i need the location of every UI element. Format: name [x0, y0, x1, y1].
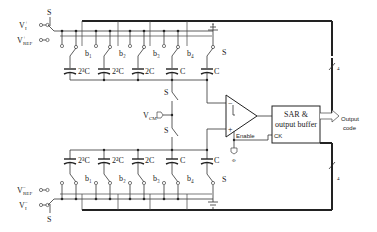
clock-phi-label: Φ	[232, 158, 236, 163]
bottom-input-switch	[39, 188, 54, 213]
top-bit-label: S	[222, 48, 226, 57]
top-bit-label: b₄	[187, 49, 194, 58]
sar-adc-schematic: S V + I V + REF b₁ b₂ b₃ b₄ S 2³C 2²C 2C…	[0, 0, 377, 232]
top-bit-label: b₂	[119, 49, 126, 58]
enable-label: Enable	[236, 133, 255, 139]
bottom-bit-label: b₂	[119, 174, 126, 183]
vref-minus-sup: −	[23, 185, 26, 190]
bottom-switch-label: S	[47, 215, 51, 224]
output-label-line2: code	[343, 125, 357, 131]
bottom-bit-label: b₃	[153, 174, 160, 183]
top-cap-label: 2²C	[112, 67, 124, 76]
comparator-minus: −	[228, 99, 233, 108]
bottom-bit-label: b₄	[187, 174, 194, 183]
vcm-sub: CM	[149, 116, 157, 121]
bottom-cap-label: C	[214, 156, 219, 165]
top-bit-label: b₁	[85, 49, 92, 58]
vin-minus-sup: −	[25, 200, 28, 205]
bus-width-top: 4	[337, 66, 340, 71]
comparator-plus: +	[228, 125, 233, 134]
top-cap-label: 2³C	[78, 67, 90, 76]
bottom-cap-label: 2²C	[112, 156, 124, 165]
vin-plus-sup: +	[25, 20, 28, 25]
sar-label-line1: SAR &	[284, 110, 309, 119]
output-label-line1: Output	[341, 116, 359, 122]
sar-label-line2: output buffer	[275, 120, 317, 129]
vcm-switch-bottom-label: S	[164, 126, 168, 135]
vref-plus-sub: REF	[23, 41, 32, 46]
top-input-switch	[39, 17, 54, 42]
bottom-bit-label: b₁	[85, 174, 92, 183]
vref-minus-sub: REF	[23, 191, 32, 196]
bottom-cap-label: 2C	[145, 156, 154, 165]
vin-minus-sub: I	[25, 206, 27, 211]
vcm-switch-top-label: S	[164, 88, 168, 97]
top-cap-label: C	[214, 67, 219, 76]
bottom-cap-label: C	[180, 156, 185, 165]
bottom-cap-label: 2³C	[78, 156, 90, 165]
top-bit-label: b₃	[153, 49, 160, 58]
top-cap-label: 2C	[145, 67, 154, 76]
bottom-bit-label: S	[222, 175, 226, 184]
ck-label: CK	[274, 133, 282, 139]
top-switch-label: S	[47, 8, 51, 17]
bus-width-bottom: 4	[337, 176, 340, 181]
vref-plus-sup: +	[23, 35, 26, 40]
top-cap-label: C	[180, 67, 185, 76]
comparator	[226, 95, 272, 137]
vin-plus-sub: I	[25, 26, 27, 31]
